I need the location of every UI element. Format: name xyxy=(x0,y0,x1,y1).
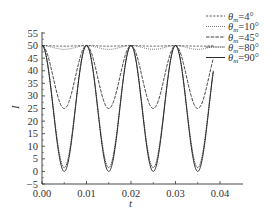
legend: θm=4°θm=10°θm=45°θm=80°θm=90° xyxy=(206,11,259,66)
y-axis-ticks: −50510152025303540455055 xyxy=(27,28,45,190)
y-tick-label: 45 xyxy=(28,53,39,64)
x-tick-label: 0.04 xyxy=(211,188,230,199)
y-tick-label: 15 xyxy=(28,128,39,139)
legend-label: θm=90° xyxy=(228,52,259,65)
y-tick-label: 35 xyxy=(28,78,39,89)
y-tick-label: 25 xyxy=(28,103,39,114)
y-tick-label: 50 xyxy=(28,40,39,51)
x-tick-label: 0.03 xyxy=(166,188,184,199)
y-tick-label: 20 xyxy=(28,116,39,127)
series-line-90deg xyxy=(42,46,213,172)
y-tick-label: 5 xyxy=(33,153,38,164)
y-tick-label: 10 xyxy=(28,141,39,152)
x-tick-label: 0.00 xyxy=(33,188,51,199)
data-series xyxy=(42,46,213,172)
series-line-80deg xyxy=(42,46,213,168)
y-tick-label: 40 xyxy=(28,65,39,76)
line-chart: −50510152025303540455055 0.000.010.020.0… xyxy=(0,0,275,220)
y-tick-label: 55 xyxy=(28,28,39,39)
series-line-4deg xyxy=(42,46,213,47)
series-line-45deg xyxy=(42,46,213,109)
x-tick-label: 0.01 xyxy=(77,188,95,199)
y-axis-label: I xyxy=(9,104,21,110)
y-tick-label: 0 xyxy=(33,166,38,177)
y-tick-label: 30 xyxy=(28,90,39,101)
